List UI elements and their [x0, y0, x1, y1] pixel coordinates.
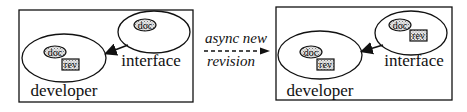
arrowhead-icon	[260, 48, 270, 55]
before-panel: doc rev developer doc interface	[19, 10, 193, 102]
rev-label: rev	[412, 30, 425, 41]
diagram-canvas: doc rev developer doc interface async ne…	[0, 0, 467, 112]
interface-label: interface	[384, 51, 443, 70]
transition-label-line1: async new	[205, 30, 267, 46]
developer-label: developer	[30, 81, 97, 100]
doc-label: doc	[48, 47, 63, 58]
developer-label: developer	[286, 81, 353, 100]
rev-label: rev	[319, 59, 332, 70]
rev-label: rev	[64, 59, 77, 70]
interface-ellipse	[118, 11, 190, 53]
transition: async new revision	[204, 30, 270, 69]
doc-label: doc	[138, 20, 153, 31]
doc-label: doc	[393, 20, 408, 31]
transition-label-line2: revision	[207, 53, 255, 69]
doc-label: doc	[304, 47, 319, 58]
interface-label: interface	[121, 51, 180, 70]
arrow-interface-to-developer	[363, 45, 383, 51]
after-panel: doc rev developer doc rev interface	[276, 7, 452, 100]
